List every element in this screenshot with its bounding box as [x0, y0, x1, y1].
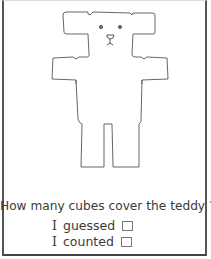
nose-icon	[107, 35, 114, 39]
counted-answer-box[interactable]	[121, 237, 132, 247]
pronoun-label: I	[52, 234, 57, 249]
guessed-answer-box[interactable]	[122, 221, 133, 231]
guessed-label: guessed	[63, 218, 115, 233]
question-text: How many cubes cover the teddy ?	[0, 199, 211, 213]
answer-row-counted: I counted	[52, 234, 132, 249]
answer-row-guessed: I guessed	[52, 218, 133, 233]
teddy-face	[99, 25, 121, 45]
mouth-icon	[107, 39, 113, 45]
counted-label: counted	[63, 234, 114, 249]
pronoun-label: I	[52, 218, 57, 233]
